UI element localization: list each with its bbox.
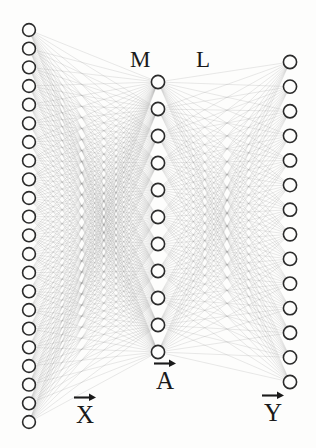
edge-bundle-M-group — [29, 30, 158, 422]
connection-edge — [158, 284, 290, 352]
connection-edge — [158, 271, 290, 357]
connection-edge — [29, 198, 158, 217]
connection-edge — [29, 30, 158, 136]
vector-arrow-icon — [153, 358, 177, 367]
connection-edge — [29, 352, 158, 385]
connection-edge — [158, 82, 290, 284]
connection-edge — [29, 123, 158, 244]
connection-edge — [158, 109, 290, 210]
connection-edge — [158, 87, 290, 271]
connection-edge — [29, 325, 158, 329]
connection-edge — [158, 111, 290, 163]
connection-edge — [29, 105, 158, 109]
connection-edge — [158, 325, 290, 333]
connection-edge — [158, 210, 290, 298]
connection-edge — [158, 136, 290, 163]
connection-edge — [158, 62, 290, 82]
connection-edge — [29, 298, 158, 329]
connection-edge — [158, 271, 290, 382]
connection-edge — [29, 82, 158, 385]
vector-arrow-icon — [261, 390, 285, 399]
connection-edge — [158, 109, 290, 357]
connection-edge — [29, 325, 158, 347]
connection-edge — [29, 217, 158, 244]
connection-edge — [158, 87, 290, 352]
vector-label-y-letter: Y — [261, 400, 285, 425]
connection-edge — [158, 82, 290, 160]
connection-edge — [29, 136, 158, 422]
connection-edge — [158, 190, 290, 284]
connection-edge — [158, 244, 290, 357]
connection-edge — [158, 160, 290, 190]
connection-edge — [158, 82, 290, 308]
connection-edge — [29, 82, 158, 235]
connection-edge — [158, 136, 290, 271]
connection-edge — [158, 244, 290, 259]
vector-arrow-icon — [73, 392, 97, 401]
vector-label-y: Y — [261, 390, 285, 425]
vector-label-a-letter: A — [153, 368, 177, 393]
connection-edge — [158, 82, 290, 87]
connection-edge — [158, 190, 290, 259]
connection-edge — [158, 185, 290, 271]
matrix-label-m: M — [130, 48, 151, 71]
node-group-input — [23, 24, 36, 429]
edge-bundle-L-group — [158, 62, 290, 382]
connection-edge — [158, 109, 290, 259]
node-group-output — [283, 55, 296, 388]
matrix-label-l: L — [196, 48, 211, 71]
connection-edge — [158, 185, 290, 352]
connection-edge — [158, 62, 290, 190]
vector-label-x-letter: X — [73, 402, 97, 427]
connection-edge — [158, 136, 290, 357]
connection-edge — [158, 163, 290, 210]
vector-label-x: X — [73, 392, 97, 427]
network-diagram-figure: M L X A Y — [0, 0, 316, 448]
connection-edge — [158, 87, 290, 136]
connection-edge — [158, 82, 290, 111]
vector-label-a: A — [153, 358, 177, 393]
connection-edge — [29, 136, 158, 403]
